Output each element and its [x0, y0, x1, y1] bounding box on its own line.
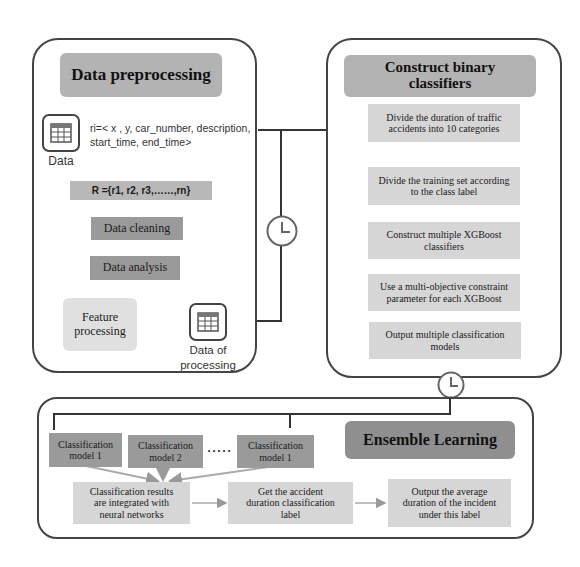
integrate-line-2: are integrated with — [94, 497, 169, 509]
model-1-line-2: model 1 — [69, 450, 102, 462]
output-line-1: Output the average — [411, 486, 487, 498]
get-label-line-2: duration classification — [246, 497, 335, 509]
output-average-box: Output the average duration of the incid… — [388, 479, 511, 527]
model-1-line-1: Classification — [58, 439, 113, 451]
integrate-line-3: neural networks — [99, 509, 163, 521]
classification-model-2: Classification model 2 — [128, 435, 203, 468]
get-label-box: Get the accident duration classification… — [228, 482, 353, 524]
models-ellipsis: ····· — [207, 444, 232, 459]
model-2-line-1: Classification — [138, 440, 193, 452]
model-2-line-2: model 2 — [149, 452, 182, 464]
model-n-line-1: Classification — [248, 440, 303, 452]
get-label-line-3: label — [281, 509, 300, 521]
classification-model-n: Classification model 1 — [237, 435, 314, 468]
integrate-line-1: Classification results — [90, 486, 174, 498]
output-line-2: duration of the incident — [403, 497, 497, 509]
ensemble-title: Ensemble Learning — [345, 421, 515, 459]
get-label-line-1: Get the accident — [258, 486, 323, 498]
output-line-3: under this label — [419, 509, 481, 521]
classification-model-1: Classification model 1 — [49, 433, 122, 467]
integrate-results-box: Classification results are integrated wi… — [73, 482, 190, 524]
ensemble-title-text: Ensemble Learning — [363, 431, 497, 449]
model-n-line-2: model 1 — [259, 452, 292, 464]
